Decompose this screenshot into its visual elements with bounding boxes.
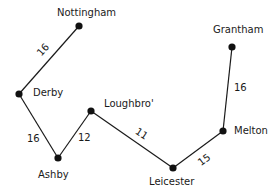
town-label-loughbro: Loughbro': [104, 99, 154, 109]
town-label-leicester: Leicester: [149, 177, 194, 187]
edge-weight-label: 16: [27, 134, 40, 144]
edge-derby-ashby: [19, 94, 58, 158]
edge-loughbro-leicester: [91, 111, 173, 168]
node-derby: [15, 90, 22, 97]
node-nottingham: [75, 22, 82, 29]
node-loughbro: [87, 107, 94, 114]
node-leicester: [169, 164, 176, 171]
town-label-grantham: Grantham: [213, 25, 263, 35]
edge-nottingham-derby: [19, 26, 79, 94]
node-grantham: [228, 43, 235, 50]
edge-weight-label: 16: [234, 83, 247, 93]
edge-weight-label: 12: [78, 133, 91, 143]
node-ashby: [54, 154, 61, 161]
town-label-ashby: Ashby: [38, 170, 69, 180]
town-label-derby: Derby: [33, 88, 63, 98]
town-label-nottingham: Nottingham: [57, 8, 116, 18]
town-label-melton: Melton: [234, 126, 268, 136]
node-melton: [219, 127, 226, 134]
edge-melton-grantham: [223, 47, 232, 131]
